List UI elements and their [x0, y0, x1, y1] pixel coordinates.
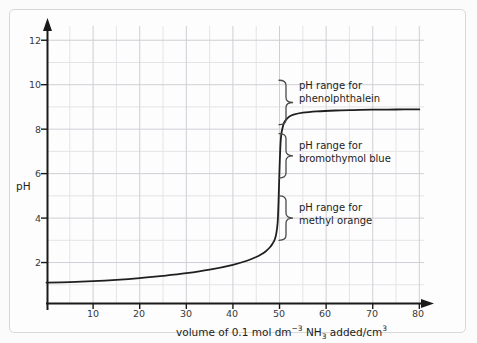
y-axis-title: pH: [16, 180, 31, 192]
x-tick-label-70: 70: [357, 308, 387, 319]
chart-canvas: [0, 0, 477, 343]
annotation-methyl-orange-line2: methyl orange: [299, 214, 372, 227]
y-tick-label-4: 4: [21, 213, 41, 224]
y-axis-ticks: [41, 40, 47, 262]
x-axis-title: volume of 0.1 mol dm−3 NH3 added/cm3: [176, 324, 387, 341]
x-tick-label-80: 80: [403, 308, 433, 319]
x-tick-label-20: 20: [124, 308, 154, 319]
annotation-methyl-orange: pH range for methyl orange: [299, 201, 372, 227]
annotation-phenolphthalein-line2: phenolphthalein: [299, 92, 380, 105]
x-tick-label-50: 50: [264, 308, 294, 319]
x-axis-title-mid: NH: [303, 326, 322, 338]
x-axis-title-sup-3: 3: [382, 324, 387, 333]
brace-phenolphthalein: [279, 80, 293, 124]
x-tick-label-10: 10: [78, 308, 108, 319]
annotation-bromothymol-blue-line2: bromothymol blue: [299, 152, 391, 165]
x-tick-label-40: 40: [217, 308, 247, 319]
indicator-range-braces: [279, 80, 293, 240]
annotation-methyl-orange-line1: pH range for: [299, 202, 362, 213]
annotation-bromothymol-blue-line1: pH range for: [299, 140, 362, 151]
figure-root: pH 12 10 8 6 4 2 10 20 30 40 50 60 70 80…: [0, 0, 477, 343]
annotation-bromothymol-blue: pH range for bromothymol blue: [299, 139, 391, 165]
y-tick-label-6: 6: [21, 168, 41, 179]
y-tick-label-2: 2: [21, 257, 41, 268]
x-axis-arrowhead: [421, 299, 434, 308]
y-tick-label-10: 10: [21, 79, 41, 90]
annotation-phenolphthalein: pH range for phenolphthalein: [299, 79, 380, 105]
y-axis-arrowhead: [43, 18, 52, 31]
annotation-phenolphthalein-line1: pH range for: [299, 80, 362, 91]
x-axis-title-pre: volume of 0.1 mol dm: [176, 326, 292, 338]
x-axis-title-post: added/cm: [326, 326, 382, 338]
x-tick-label-30: 30: [171, 308, 201, 319]
y-tick-label-12: 12: [21, 35, 41, 46]
y-tick-label-8: 8: [21, 124, 41, 135]
x-tick-label-60: 60: [310, 308, 340, 319]
x-axis-title-sup-minus3: −3: [292, 324, 303, 333]
